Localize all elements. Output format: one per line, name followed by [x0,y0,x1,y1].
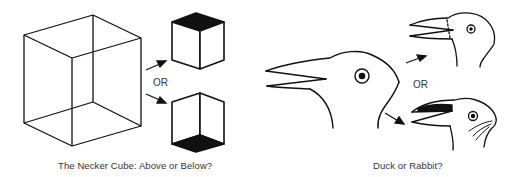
duck-rabbit-panel: OR Duck or Rabbit? [260,0,517,177]
necker-cube-caption: The Necker Cube: Above or Below? [58,160,212,171]
duck-rabbit-head [266,51,399,128]
wireframe-cube [24,15,141,146]
or-label: OR [413,79,428,90]
cube-from-above-icon [172,13,224,69]
cube-from-below-icon [172,93,224,152]
eye-icon [355,69,369,83]
necker-cube-illustration [0,0,260,177]
duck-rabbit-caption: Duck or Rabbit? [373,160,443,171]
necker-cube-panel: OR The Necker Cube: Above or Below? [0,0,260,177]
duck-rabbit-illustration [260,0,517,177]
rabbit-interpretation-icon [412,98,496,150]
or-label: OR [153,77,168,88]
